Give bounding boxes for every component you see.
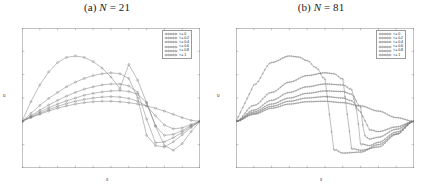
panel-a-title: (a) N = 21 xyxy=(0,1,214,13)
panel-b-title: (b) N = 81 xyxy=(214,1,428,13)
panel-b-legend-item-5[interactable]: t = 1 xyxy=(378,53,403,57)
legend-line-marker-icon xyxy=(378,53,392,57)
panel-a-ylabel: u xyxy=(3,93,6,98)
legend-item-label: t = 1 xyxy=(180,53,187,58)
legend-line-marker-icon xyxy=(164,53,178,57)
panel-b-legend: t = 0t = 0.2t = 0.4t = 0.6t = 0.8t = 1 xyxy=(376,30,406,59)
chart-panel-a: (a) N = 21 u x 00.10.20.30.40.50.60.70.8… xyxy=(0,0,214,190)
panel-a-legend-item-5[interactable]: t = 1 xyxy=(164,53,189,57)
panel-a-xlabel: x xyxy=(0,177,214,182)
chart-panel-b: (b) N = 81 u x 00.10.20.30.40.50.60.70.8… xyxy=(214,0,428,190)
legend-item-label: t = 1 xyxy=(394,53,401,58)
panel-b-ylabel: u xyxy=(217,93,220,98)
panel-b-xlabel: x xyxy=(214,177,428,182)
figure-container: (a) N = 21 u x 00.10.20.30.40.50.60.70.8… xyxy=(0,0,429,190)
panel-a-legend: t = 0t = 0.2t = 0.4t = 0.6t = 0.8t = 1 xyxy=(162,30,192,59)
